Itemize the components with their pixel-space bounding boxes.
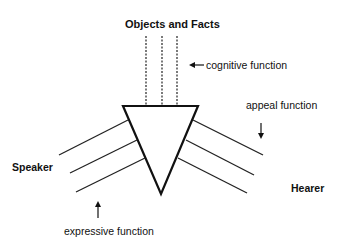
cognitive-function-label: cognitive function	[206, 60, 287, 71]
cognitive-dashed-lines	[146, 36, 177, 106]
speaker-label: Speaker	[12, 162, 53, 173]
speaker-lines	[59, 120, 145, 192]
expressive-function-label: expressive function	[64, 226, 154, 237]
expressive-arrow-icon	[95, 201, 101, 218]
hearer-lines	[178, 120, 263, 193]
hearer-label: Hearer	[291, 183, 324, 194]
appeal-arrow-icon	[258, 123, 264, 139]
organon-diagram	[0, 0, 338, 239]
appeal-function-label: appeal function	[246, 100, 317, 111]
sign-triangle	[123, 106, 198, 194]
objects-and-facts-label: Objects and Facts	[125, 19, 220, 30]
cognitive-arrow-icon	[189, 62, 204, 68]
